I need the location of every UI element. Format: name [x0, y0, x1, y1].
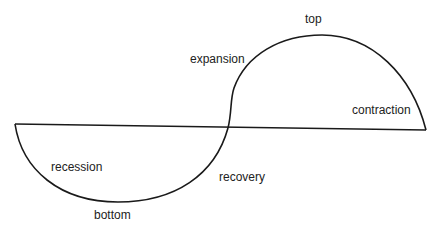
- trend-baseline: [15, 124, 426, 130]
- label-recession: recession: [51, 160, 102, 174]
- label-recovery: recovery: [219, 170, 265, 184]
- label-bottom: bottom: [94, 208, 131, 222]
- label-expansion: expansion: [190, 52, 245, 66]
- cycle-curve-lower: [15, 124, 228, 202]
- label-top: top: [305, 12, 322, 26]
- label-contraction: contraction: [352, 103, 411, 117]
